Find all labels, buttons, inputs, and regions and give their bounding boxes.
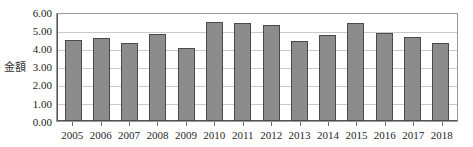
x-axis-tick-mark-slot [427, 122, 455, 127]
x-axis-tick-mark-slot [200, 122, 228, 127]
bar-slot [370, 14, 398, 121]
x-axis-tick-mark-slot [342, 122, 370, 127]
bar[interactable] [404, 37, 421, 121]
x-axis-tick-mark-slot [86, 122, 114, 127]
bar-slot [285, 14, 313, 121]
y-axis-tick-label: 5.00 [18, 26, 52, 37]
bar[interactable] [93, 38, 110, 121]
bar-slot [314, 14, 342, 121]
bar-slot [116, 14, 144, 121]
bar[interactable] [121, 43, 138, 121]
y-axis-tick-label: 0.00 [18, 117, 52, 128]
x-axis-tick-mark-slot [58, 122, 86, 127]
x-axis-tick-mark [72, 122, 73, 126]
x-axis-tick-label: 2006 [86, 128, 114, 144]
x-axis-tick-mark [243, 122, 244, 126]
x-axis-tick-label: 2007 [115, 128, 143, 144]
bar[interactable] [263, 25, 280, 121]
x-axis-tick-mark [413, 122, 414, 126]
y-axis-tick-label: 1.00 [18, 99, 52, 110]
x-axis-tick-mark-slot [257, 122, 285, 127]
bar[interactable] [65, 40, 82, 121]
x-axis-tick-mark-slot [172, 122, 200, 127]
y-axis-tick-label: 6.00 [18, 8, 52, 19]
x-axis-tick-label: 2012 [257, 128, 285, 144]
x-axis-tick-mark-slot [143, 122, 171, 127]
bar-slot [172, 14, 200, 121]
x-axis-tick-label: 2010 [200, 128, 228, 144]
x-axis-tick-mark [186, 122, 187, 126]
x-axis-tick-mark [300, 122, 301, 126]
x-axis-tick-mark [385, 122, 386, 126]
bar-slot [87, 14, 115, 121]
y-axis-tick-label: 3.00 [18, 62, 52, 73]
bar-slot [144, 14, 172, 121]
bar[interactable] [291, 41, 308, 121]
x-axis-tick-mark [101, 122, 102, 126]
bar[interactable] [178, 48, 195, 121]
x-axis-tick-mark [356, 122, 357, 126]
bar-slot [257, 14, 285, 121]
x-axis-tick-marks [56, 122, 458, 127]
x-axis-tick-label: 2015 [342, 128, 370, 144]
x-axis-tick-label: 2016 [371, 128, 399, 144]
x-axis-tick-label: 2018 [427, 128, 455, 144]
y-axis-tick-label: 2.00 [18, 80, 52, 91]
x-axis-tick-mark [157, 122, 158, 126]
x-axis-tick-label: 2014 [314, 128, 342, 144]
x-axis-tick-mark-slot [371, 122, 399, 127]
x-axis-tick-label: 2005 [58, 128, 86, 144]
y-axis-tick-label: 4.00 [18, 44, 52, 55]
x-axis-tick-label: 2013 [285, 128, 313, 144]
x-axis-tick-label: 2008 [143, 128, 171, 144]
bar[interactable] [319, 35, 336, 121]
bar-series [57, 14, 457, 121]
x-axis-tick-mark [328, 122, 329, 126]
bar-slot [229, 14, 257, 121]
bar-slot [342, 14, 370, 121]
x-axis-tick-label: 2009 [172, 128, 200, 144]
x-axis-tick-mark-slot [285, 122, 313, 127]
bar[interactable] [432, 43, 449, 121]
x-axis-tick-mark [271, 122, 272, 126]
bar-slot [398, 14, 426, 121]
bar-slot [427, 14, 455, 121]
x-axis-tick-mark-slot [115, 122, 143, 127]
bar[interactable] [376, 33, 393, 121]
bar[interactable] [347, 23, 364, 121]
x-axis-tick-mark [129, 122, 130, 126]
x-axis-tick-labels: 2005200620072008200920102011201220132014… [56, 128, 458, 144]
bar[interactable] [149, 34, 166, 121]
x-axis-tick-mark [214, 122, 215, 126]
x-axis-tick-label: 2011 [229, 128, 257, 144]
bar[interactable] [206, 22, 223, 121]
bar[interactable] [234, 23, 251, 121]
x-axis-tick-mark [442, 122, 443, 126]
y-axis-tick-labels: 6.00 5.00 4.00 3.00 2.00 1.00 0.00 [18, 0, 52, 147]
plot-area [56, 13, 458, 122]
x-axis-tick-label: 2017 [399, 128, 427, 144]
bar-slot [200, 14, 228, 121]
x-axis-tick-mark-slot [229, 122, 257, 127]
bar-chart-figure: 金額 6.00 5.00 4.00 3.00 2.00 1.00 0.00 20… [0, 0, 473, 147]
bar-slot [59, 14, 87, 121]
x-axis-tick-mark-slot [399, 122, 427, 127]
x-axis-tick-mark-slot [314, 122, 342, 127]
